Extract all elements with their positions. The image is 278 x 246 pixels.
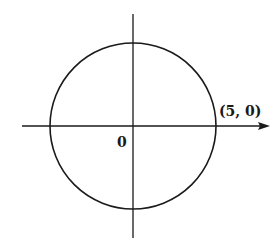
diagram-canvas: [0, 0, 278, 246]
origin-label: 0: [117, 135, 127, 149]
x-axis: [22, 122, 270, 130]
point-label: (5, 0): [219, 104, 261, 118]
